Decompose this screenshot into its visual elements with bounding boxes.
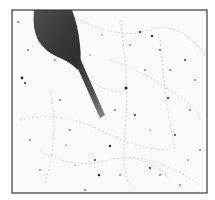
photo xyxy=(0,0,215,200)
